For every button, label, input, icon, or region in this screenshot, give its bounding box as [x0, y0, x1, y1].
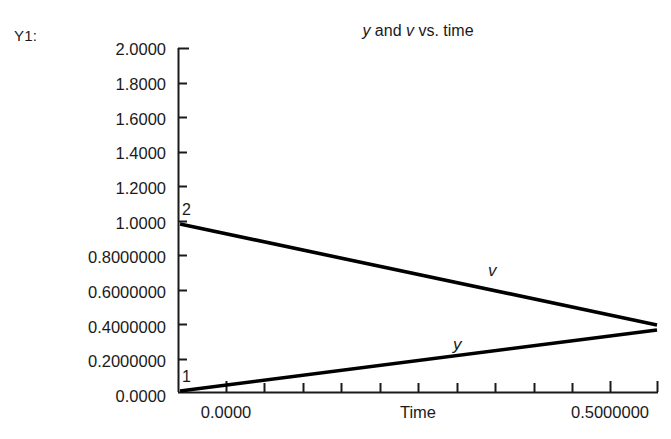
- x-tick-label: 0.0000: [201, 404, 251, 421]
- series-line-y: [180, 330, 657, 391]
- series-inline-label-y: y: [453, 336, 462, 353]
- plot-root: Y1: y and v vs. time 2.0000 1.8000 1.600…: [0, 0, 671, 439]
- x-axis-title: Time: [400, 404, 436, 421]
- x-tick-label: 0.5000000: [571, 404, 649, 421]
- curve-number-marker-y: 1: [182, 369, 191, 385]
- x-axis-ticks: [227, 381, 658, 392]
- series-line-v: [180, 224, 657, 325]
- axes-and-series-layer: [0, 0, 671, 439]
- series-inline-label-v: v: [488, 262, 497, 279]
- curve-number-marker-v: 2: [182, 202, 191, 218]
